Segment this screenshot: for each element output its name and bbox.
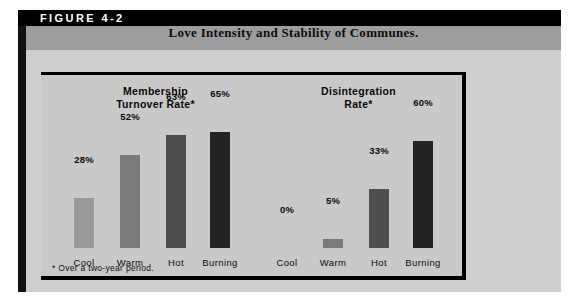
bar-warm (120, 155, 140, 248)
bar-value-burning: 60% (402, 97, 444, 108)
figure-footnote: * Over a two-year period. (52, 263, 154, 273)
bar-value-burning: 65% (199, 88, 241, 99)
bar-slot-cool: 0% Cool (266, 123, 308, 248)
bar-value-warm: 52% (109, 111, 151, 122)
bar-burning (413, 141, 433, 248)
bar-value-hot: 63% (155, 91, 197, 102)
figure-left-spine (18, 16, 26, 292)
bar-slot-burning: 60% Burning (402, 123, 444, 248)
bar-value-cool: 0% (266, 204, 308, 215)
figure-label-bar: FIGURE 4-2 (18, 10, 561, 26)
bar-category-burning: Burning (193, 257, 247, 268)
bar-warm (323, 239, 343, 248)
bar-slot-warm: 52% Warm (109, 123, 151, 248)
figure-container: Love Intensity and Stability of Communes… (18, 10, 561, 292)
figure-label: FIGURE 4-2 (40, 11, 125, 25)
bar-value-warm: 5% (312, 195, 354, 206)
bar-value-cool: 28% (63, 154, 105, 165)
bar-value-hot: 33% (358, 145, 400, 156)
bar-burning (210, 132, 230, 248)
chart-group-membership-turnover: Membership Turnover Rate* 28% Cool 52% W… (63, 75, 248, 283)
bar-cool (74, 198, 94, 248)
plot-area-disintegration-rate: 0% Cool 5% Warm 33% Hot (266, 123, 451, 278)
bar-slot-hot: 33% Hot (358, 123, 400, 248)
bar-slot-warm: 5% Warm (312, 123, 354, 248)
bar-hot (166, 135, 186, 248)
figure-title: Love Intensity and Stability of Communes… (26, 25, 561, 41)
bar-category-burning: Burning (396, 257, 450, 268)
bar-slot-burning: 65% Burning (199, 123, 241, 248)
bar-slot-cool: 28% Cool (63, 123, 105, 248)
chart-panel: Membership Turnover Rate* 28% Cool 52% W… (41, 72, 466, 280)
chart-group-disintegration-rate: Disintegration Rate* 0% Cool 5% Warm (266, 75, 451, 283)
bar-slot-hot: 63% Hot (155, 123, 197, 248)
plot-area-membership-turnover: 28% Cool 52% Warm 63% Hot (63, 123, 248, 278)
figure-body: Membership Turnover Rate* 28% Cool 52% W… (26, 50, 561, 292)
bar-hot (369, 189, 389, 248)
